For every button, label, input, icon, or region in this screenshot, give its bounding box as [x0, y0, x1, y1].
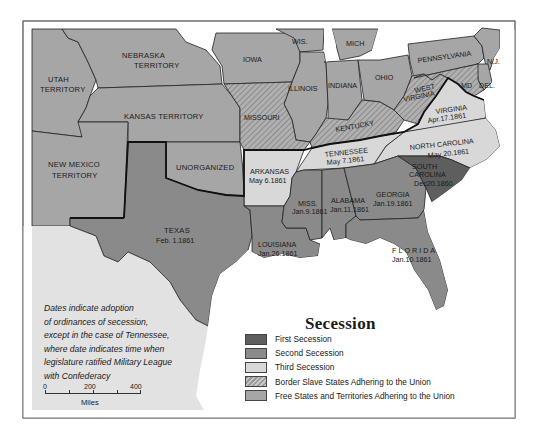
- legend-label: Free States and Territories Adhering to …: [275, 391, 455, 401]
- legend-swatch: [245, 390, 267, 401]
- label-louisiana-date: Jan.26.1861: [258, 249, 298, 258]
- note-line: of ordinances of secession,: [44, 316, 204, 330]
- label-new-mexico-1: NEW MEXICO: [48, 160, 100, 169]
- label-texas-date: Feb. 1.1861: [156, 236, 194, 245]
- note-line: Dates indicate adoption: [44, 302, 204, 316]
- legend-item-free-states: Free States and Territories Adhering to …: [245, 389, 455, 403]
- label-illinois: ILLINOIS: [288, 84, 318, 93]
- legend-swatch-hatched: [245, 376, 267, 387]
- legend-title: Secession: [305, 314, 376, 334]
- map-note: Dates indicate adoption of ordinances of…: [44, 302, 204, 383]
- label-wis: WIS.: [292, 37, 308, 46]
- legend: First Secession Second Secession Third S…: [245, 332, 455, 403]
- legend-item-third-secession: Third Secession: [245, 360, 455, 374]
- label-md: MD: [461, 81, 472, 90]
- legend-label: Second Secession: [275, 348, 344, 358]
- label-alabama-name: ALABAMA: [331, 196, 365, 205]
- scale-tick-0: 0: [43, 383, 47, 390]
- legend-label: First Secession: [275, 334, 332, 344]
- scale-tick-mark: [69, 390, 70, 394]
- legend-label: Border Slave States Adhering to the Unio…: [275, 377, 431, 387]
- label-mississippi-date: Jan.9.1861: [292, 207, 328, 216]
- label-utah-1: UTAH: [48, 75, 69, 84]
- label-iowa: IOWA: [243, 55, 262, 64]
- label-ohio: OHIO: [375, 73, 394, 82]
- label-nebraska-2: TERRITORY: [134, 61, 179, 70]
- label-kansas: KANSAS TERRITORY: [124, 112, 204, 121]
- legend-swatch: [245, 362, 267, 373]
- legend-item-second-secession: Second Secession: [245, 346, 455, 360]
- legend-swatch: [245, 348, 267, 359]
- note-line: with Confederacy: [44, 370, 204, 384]
- scale-tick-mark: [45, 390, 46, 394]
- scale-tick-400: 400: [130, 383, 142, 390]
- note-line: except in the case of Tennessee,: [44, 329, 204, 343]
- label-indiana: INDIANA: [328, 81, 357, 90]
- label-mich: MICH: [346, 39, 364, 48]
- label-georgia-name: GEORGIA: [376, 190, 410, 199]
- scale-unit: Miles: [81, 398, 99, 407]
- label-arkansas-date: May 6.1861: [249, 176, 287, 185]
- label-new-mexico-2: TERRITORY: [52, 171, 97, 180]
- label-utah-2: TERRITORY: [40, 85, 85, 94]
- label-georgia-date: Jan.19.1861: [373, 199, 413, 208]
- label-unorganized: UNORGANIZED: [176, 163, 235, 172]
- label-south-carolina-2: CAROLINA: [409, 170, 446, 179]
- scale-tick-mark: [140, 390, 141, 394]
- legend-item-border-states: Border Slave States Adhering to the Unio…: [245, 375, 455, 389]
- label-arkansas-name: ARKANSAS: [250, 167, 289, 176]
- label-nj: N.J.: [487, 57, 500, 66]
- label-louisiana-name: LOUISIANA: [258, 240, 297, 249]
- label-del: DEL.: [479, 81, 495, 90]
- label-texas-name: TEXAS: [164, 226, 190, 235]
- label-missouri: MISSOURI: [244, 113, 280, 122]
- scale-bar: 0 200 400 Miles: [42, 383, 162, 413]
- label-south-carolina-date: Dec20.1860: [414, 179, 453, 188]
- scale-tick-200: 200: [84, 383, 96, 390]
- legend-item-first-secession: First Secession: [245, 332, 455, 346]
- scale-tick-mark: [93, 390, 94, 394]
- note-line: legislature ratified Military League: [44, 356, 204, 370]
- label-florida-name: FLORIDA: [392, 246, 437, 255]
- scale-tick-mark: [117, 390, 118, 394]
- label-nebraska-1: NEBRASKA: [122, 51, 166, 60]
- legend-swatch: [245, 334, 267, 345]
- note-line: where date indicates time when: [44, 343, 204, 357]
- label-alabama-date: Jan.11.1861: [330, 205, 369, 214]
- label-florida-date: Jan.10.1861: [392, 255, 432, 264]
- legend-label: Third Secession: [275, 362, 335, 372]
